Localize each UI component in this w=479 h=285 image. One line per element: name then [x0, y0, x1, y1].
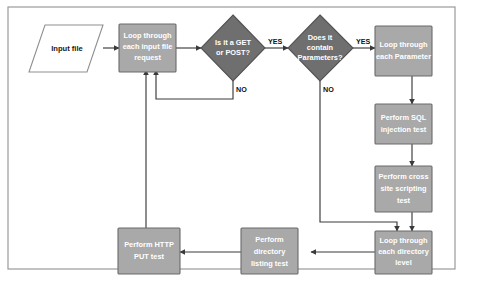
loop-each-parameter-line-2: each Parameter: [376, 52, 431, 61]
perform-cross-site-scripting-test-line-2: site scripting: [381, 184, 427, 193]
perform-directory-listing-test-line-2: directory: [254, 247, 287, 256]
loop-each-directory-level-line-1: Loop through: [379, 236, 428, 245]
loop-input-file-request-line-1: Loop through: [123, 31, 172, 40]
node-perform-cross-site-scripting-test: Perform cross site scripting test: [375, 166, 432, 212]
perform-sql-injection-test-line-1: Perform SQL: [381, 113, 427, 122]
flowchart-figure: Input file Loop through each input file …: [0, 0, 479, 285]
loop-each-parameter-line-1: Loop through: [379, 40, 428, 49]
perform-http-put-test-line-2: PUT test: [134, 252, 165, 261]
does-it-contain-parameters-line-3: Parameters?: [298, 53, 343, 62]
branch-label-parameters-no: NO: [323, 85, 334, 94]
flowchart-canvas: Input file Loop through each input file …: [0, 0, 479, 285]
is-get-or-post-line-2: or POST?: [216, 48, 251, 57]
node-loop-each-directory-level: Loop through each directory level: [375, 231, 432, 274]
does-it-contain-parameters-line-1: Does it: [308, 33, 333, 42]
node-loop-each-parameter: Loop through each Parameter: [375, 26, 432, 76]
branch-label-get-post-yes: YES: [268, 37, 283, 46]
perform-directory-listing-test-line-1: Perform: [255, 235, 284, 244]
perform-cross-site-scripting-test-line-3: test: [397, 196, 411, 205]
input-file-label: Input file: [51, 44, 83, 53]
loop-input-file-request-line-3: request: [134, 53, 161, 62]
is-get-or-post-line-1: Is it a GET: [215, 38, 252, 47]
perform-http-put-test-line-1: Perform HTTP: [124, 240, 174, 249]
perform-cross-site-scripting-test-line-1: Perform cross: [378, 172, 428, 181]
node-loop-input-file-request: Loop through each input file request: [119, 24, 176, 72]
does-it-contain-parameters-line-2: contain: [307, 43, 334, 52]
node-perform-sql-injection-test: Perform SQL injection test: [375, 104, 432, 144]
branch-label-parameters-yes: YES: [356, 37, 371, 46]
node-perform-http-put-test: Perform HTTP PUT test: [118, 228, 180, 274]
perform-sql-injection-test-line-2: injection test: [381, 125, 427, 134]
node-perform-directory-listing-test: Perform directory listing test: [241, 228, 298, 274]
loop-each-directory-level-line-2: each directory: [378, 247, 429, 256]
loop-input-file-request-line-2: each input file: [123, 42, 173, 51]
loop-each-directory-level-line-3: level: [395, 258, 411, 267]
perform-directory-listing-test-line-3: listing test: [251, 259, 288, 268]
branch-label-get-post-no: NO: [236, 85, 247, 94]
